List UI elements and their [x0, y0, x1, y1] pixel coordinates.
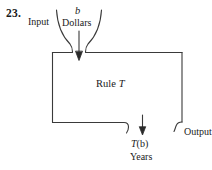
problem-number: 23. — [6, 8, 21, 20]
output-expression-label: T(b) — [131, 139, 148, 149]
output-arrow-head — [139, 127, 145, 135]
input-label: Input — [28, 17, 49, 27]
rule-name: T — [116, 78, 125, 89]
input-units-label: Dollars — [62, 18, 91, 28]
box-bottom-left-segment — [53, 123, 129, 134]
input-variable-label: b — [75, 6, 80, 17]
output-expression-arg: (b) — [137, 138, 149, 149]
output-label: Output — [184, 127, 212, 137]
rule-word: Rule — [96, 78, 116, 89]
rule-label: RuleT — [96, 79, 125, 90]
output-spout-right-curve — [174, 122, 182, 132]
function-machine-figure: 23. Input b Dollars RuleT T(b) Years Out… — [0, 0, 212, 170]
input-arrow-head — [76, 52, 83, 61]
output-units-label: Years — [130, 152, 152, 162]
